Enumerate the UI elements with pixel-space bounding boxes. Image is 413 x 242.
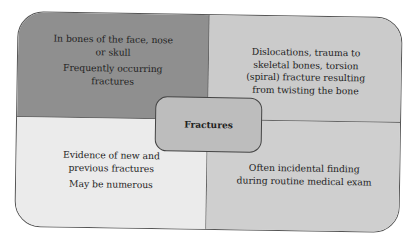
quadrant-text: Frequently occurring fractures xyxy=(48,61,178,88)
quadrant-text: Dislocations, trauma to skeletal bones, … xyxy=(240,46,371,98)
quadrant-text: Evidence of new and previous fractures xyxy=(46,148,176,175)
center-label: Fractures xyxy=(184,119,233,130)
quadrant-text: Often incidental finding during routine … xyxy=(234,161,374,188)
center-box: Fractures xyxy=(155,96,263,153)
quadrant-text: In bones of the face, nose or skull xyxy=(48,32,178,59)
quadrant-text: May be numerous xyxy=(69,178,153,192)
diagram: In bones of the face, nose or skull Freq… xyxy=(0,0,413,242)
